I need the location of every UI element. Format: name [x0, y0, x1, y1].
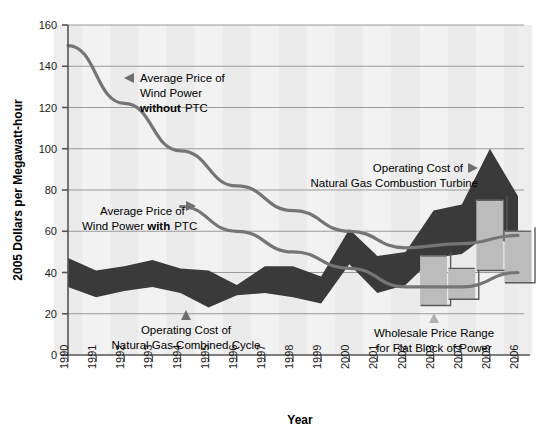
y-tick-label: 40 — [45, 267, 57, 279]
annotation-wind-with-ptc: Average Price of Wind Power withPTC — [82, 201, 197, 232]
y-axis-title: 2005 Dollars per Megawatt-hour — [11, 99, 25, 281]
annotation-line-1: Wholesale Price Range — [374, 327, 494, 339]
chart-container: 020406080100120140160 199019911992199319… — [0, 0, 547, 440]
x-tick-label: 1990 — [58, 345, 70, 369]
x-axis-title: Year — [287, 413, 313, 427]
annotation-bold-word: with — [146, 220, 170, 232]
x-tick-label: 2000 — [339, 345, 351, 369]
x-tick-label: 1999 — [311, 345, 323, 369]
x-tick-label: 1991 — [86, 345, 98, 369]
annotation-bold-word: without — [139, 102, 181, 114]
annotation-line-2: Wind Power — [140, 87, 202, 99]
wind-power-cost-chart: 020406080100120140160 199019911992199319… — [0, 0, 547, 440]
x-tick-label: 2006 — [508, 345, 520, 369]
annotation-line-1: Operating Cost of — [141, 324, 232, 336]
y-tick-label: 0 — [51, 349, 57, 361]
annotation-line-2: Wind Power withPTC — [82, 220, 197, 232]
annotation-line-2: Natural Gas Combustion Turbine — [311, 177, 478, 189]
annotation-line-3: withoutPTC — [139, 102, 208, 114]
y-tick-label: 120 — [39, 102, 57, 114]
y-tick-label: 160 — [39, 19, 57, 31]
y-tick-label: 60 — [45, 225, 57, 237]
annotation-line-2: for Flat Block of Power — [376, 342, 492, 354]
y-tick-label: 100 — [39, 143, 57, 155]
y-tick-label: 20 — [45, 308, 57, 320]
annotation-line-1: Average Price of — [140, 72, 226, 84]
x-tick-label: 1998 — [283, 345, 295, 369]
annotation-line-1: Operating Cost of — [373, 162, 464, 174]
y-tick-label: 80 — [45, 184, 57, 196]
annotation-line-1: Average Price of — [100, 205, 186, 217]
annotation-line-2: Natural Gas Combined Cycle — [112, 339, 261, 351]
y-tick-label: 140 — [39, 60, 57, 72]
